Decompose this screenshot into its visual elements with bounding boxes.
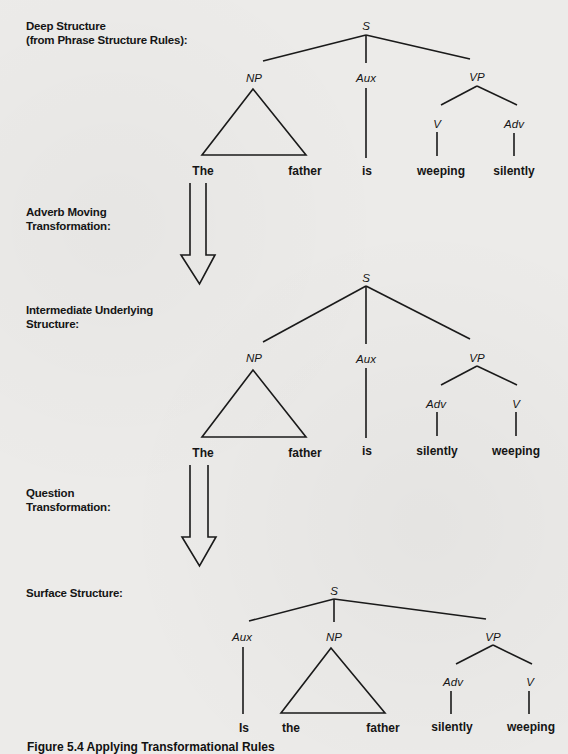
edge-s-vp [334, 599, 486, 619]
edge-s-np [263, 35, 366, 61]
edge-s-aux [249, 599, 334, 621]
node-np: NP [246, 72, 262, 84]
node-aux: Aux [355, 72, 377, 84]
node-aux: Aux [231, 631, 253, 643]
node-v: V [433, 118, 442, 130]
node-vp: VP [469, 71, 485, 83]
edge-s-np [263, 286, 366, 342]
edge-s-vp [366, 35, 470, 59]
node-vp: VP [485, 631, 501, 643]
tree-deep-structure: S NP The father Aux is VP V weeping Adv … [192, 20, 535, 178]
node-s: S [362, 20, 370, 32]
word-father: father [366, 721, 400, 735]
edge-vp-right [477, 366, 517, 385]
word-the: the [282, 721, 300, 735]
node-v: V [512, 398, 521, 410]
word-the: The [192, 164, 214, 178]
word-silently: silently [493, 164, 535, 178]
node-v: V [526, 676, 535, 688]
word-weeping: weeping [416, 164, 465, 178]
word-is: is [362, 444, 372, 458]
edge-vp-left [456, 645, 493, 664]
word-weeping: weeping [491, 444, 540, 458]
edge-vp-right [493, 645, 532, 664]
node-aux: Aux [355, 353, 377, 365]
node-s: S [362, 272, 370, 284]
np-triangle [202, 89, 306, 155]
figure-caption: Figure 5.4 Applying Transformational Rul… [27, 740, 275, 754]
edge-vp-right [477, 86, 517, 105]
word-the: The [192, 446, 214, 460]
word-is: is [362, 164, 372, 178]
word-silently: silently [431, 720, 473, 734]
edge-vp-left [441, 366, 477, 385]
node-adv: Adv [425, 398, 447, 410]
node-vp: VP [469, 352, 485, 364]
node-np: NP [326, 631, 342, 643]
word-father: father [288, 446, 322, 460]
node-adv: Adv [503, 118, 525, 130]
word-silently: silently [416, 444, 458, 458]
transformation-arrow-icon [182, 465, 216, 566]
node-np: NP [246, 352, 262, 364]
node-s: S [330, 585, 338, 597]
transformation-arrow-icon [181, 183, 215, 284]
edge-vp-left [441, 86, 477, 105]
word-is: Is [239, 721, 249, 735]
node-adv: Adv [442, 676, 464, 688]
tree-surface-structure: S Aux Is NP the father VP Adv silently V… [231, 585, 555, 735]
np-triangle [202, 370, 306, 437]
word-weeping: weeping [506, 720, 555, 734]
edge-s-vp [366, 286, 470, 339]
np-triangle [281, 648, 385, 713]
tree-intermediate-structure: S NP The father Aux is VP Adv silently V… [192, 272, 540, 460]
word-father: father [288, 164, 322, 178]
